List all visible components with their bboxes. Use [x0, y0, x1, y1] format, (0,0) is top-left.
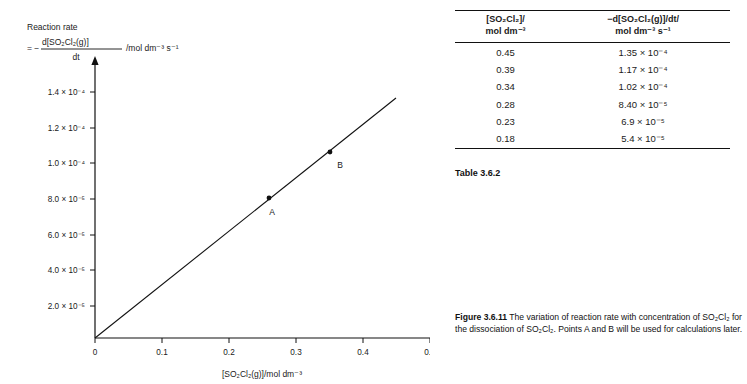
cell-rate: 8.40 × 10⁻⁵	[556, 96, 730, 113]
table-row: 0.18 5.4 × 10⁻⁵	[455, 130, 730, 148]
x-tick-label: 0.3	[290, 348, 302, 357]
cell-rate: 5.4 × 10⁻⁵	[556, 130, 730, 148]
data-table-wrapper: [SO₂Cl₂]/ mol dm⁻³ −d[SO₂Cl₂(g)]/dt/ mol…	[455, 10, 735, 149]
y-tick-label: 8.0 × 10⁻⁵	[48, 195, 85, 204]
cell-concentration: 0.28	[455, 96, 556, 113]
cell-rate: 1.02 × 10⁻⁴	[556, 78, 730, 95]
cell-concentration: 0.45	[455, 43, 556, 61]
y-tick-label: 1.4 × 10⁻⁴	[48, 88, 86, 97]
table-col-header-concentration: [SO₂Cl₂]/ mol dm⁻³	[455, 11, 556, 43]
cell-concentration: 0.18	[455, 130, 556, 148]
y-axis-label-line1: Reaction rate	[27, 22, 78, 32]
y-tick-label: 6.0 × 10⁻⁵	[48, 231, 85, 240]
x-tick-label: 0.2	[223, 348, 235, 357]
y-axis-label-units: /mol dm⁻³ s⁻¹	[126, 43, 179, 53]
y-axis-label-denominator: dt	[72, 52, 80, 62]
y-tick-label: 1.0 × 10⁻⁴	[48, 159, 86, 168]
table-row: 0.45 1.35 × 10⁻⁴	[455, 43, 730, 61]
header-line2: mol dm⁻³ s⁻¹	[615, 26, 671, 36]
axes	[91, 56, 430, 342]
data-point-a	[267, 196, 272, 201]
header-line1: [SO₂Cl₂]/	[486, 14, 525, 24]
figure-caption: Figure 3.6.11 The variation of reaction …	[455, 311, 743, 335]
header-line1: −d[SO₂Cl₂(g)]/dt/	[607, 14, 679, 24]
x-tick-label: 0.5	[424, 348, 430, 357]
cell-concentration: 0.23	[455, 113, 556, 130]
cell-rate: 1.17 × 10⁻⁴	[556, 61, 730, 78]
y-axis-label-equals: = −	[27, 43, 39, 53]
chart-svg: 0 0.1 0.2 0.3 0.4 0.5 2.0 × 10⁻⁵ 4.0 × 1…	[0, 0, 430, 384]
header-line2: mol dm⁻³	[486, 26, 526, 36]
x-axis-label: [SO₂Cl₂(g)]/mol dm⁻³	[222, 369, 302, 379]
y-axis-label: Reaction rate = − d[SO₂Cl₂(g)] dt /mol d…	[27, 22, 179, 62]
y-tick-label: 1.2 × 10⁻⁴	[48, 124, 86, 133]
table-header-row: [SO₂Cl₂]/ mol dm⁻³ −d[SO₂Cl₂(g)]/dt/ mol…	[455, 11, 730, 43]
data-point-b	[328, 150, 333, 155]
table-row: 0.23 6.9 × 10⁻⁵	[455, 113, 730, 130]
table-row: 0.34 1.02 × 10⁻⁴	[455, 78, 730, 95]
page-root: 0 0.1 0.2 0.3 0.4 0.5 2.0 × 10⁻⁵ 4.0 × 1…	[0, 0, 747, 384]
table-caption: Table 3.6.2	[455, 168, 500, 178]
x-tick-label: 0	[93, 348, 98, 357]
data-points: A B	[267, 150, 344, 217]
table-row: 0.28 8.40 × 10⁻⁵	[455, 96, 730, 113]
table-head: [SO₂Cl₂]/ mol dm⁻³ −d[SO₂Cl₂(g)]/dt/ mol…	[455, 11, 730, 43]
best-fit-line	[95, 98, 396, 338]
y-axis-ticks: 2.0 × 10⁻⁵ 4.0 × 10⁻⁵ 6.0 × 10⁻⁵ 8.0 × 1…	[48, 88, 95, 311]
figure-caption-label: Figure 3.6.11	[455, 312, 507, 322]
y-axis-label-numerator: d[SO₂Cl₂(g)]	[42, 37, 89, 47]
data-table: [SO₂Cl₂]/ mol dm⁻³ −d[SO₂Cl₂(g)]/dt/ mol…	[455, 10, 730, 149]
cell-concentration: 0.39	[455, 61, 556, 78]
point-label-a: A	[269, 207, 275, 217]
table-body: 0.45 1.35 × 10⁻⁴ 0.39 1.17 × 10⁻⁴ 0.34 1…	[455, 43, 730, 148]
x-tick-label: 0.4	[357, 348, 369, 357]
point-label-b: B	[337, 160, 343, 170]
table-row: 0.39 1.17 × 10⁻⁴	[455, 61, 730, 78]
cell-concentration: 0.34	[455, 78, 556, 95]
y-tick-label: 4.0 × 10⁻⁵	[48, 266, 85, 275]
rate-vs-concentration-chart: 0 0.1 0.2 0.3 0.4 0.5 2.0 × 10⁻⁵ 4.0 × 1…	[0, 0, 430, 384]
cell-rate: 6.9 × 10⁻⁵	[556, 113, 730, 130]
x-tick-label: 0.1	[156, 348, 168, 357]
y-tick-label: 2.0 × 10⁻⁵	[48, 302, 85, 311]
cell-rate: 1.35 × 10⁻⁴	[556, 43, 730, 61]
x-axis-ticks: 0 0.1 0.2 0.3 0.4 0.5	[93, 338, 430, 357]
table-col-header-rate: −d[SO₂Cl₂(g)]/dt/ mol dm⁻³ s⁻¹	[556, 11, 730, 43]
